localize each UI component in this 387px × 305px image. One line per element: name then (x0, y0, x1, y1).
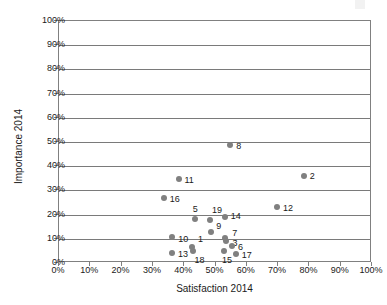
data-point-label: 1 (198, 235, 203, 244)
data-point-label: 18 (195, 256, 205, 265)
data-point (169, 234, 175, 240)
data-point-label: 15 (222, 256, 232, 265)
data-point (161, 195, 167, 201)
y-tick-label: 40% (21, 161, 65, 170)
x-tick-label: 100% (351, 266, 387, 275)
data-point (227, 142, 233, 148)
y-tick-label: 50% (21, 137, 65, 146)
data-point (229, 243, 235, 249)
data-point (233, 251, 239, 257)
y-tick-label: 20% (21, 210, 65, 219)
gridline-horizontal (59, 69, 370, 70)
data-point-label: 8 (236, 142, 241, 151)
y-tick-label: 90% (21, 40, 65, 49)
y-tick-label: 30% (21, 185, 65, 194)
data-point (190, 248, 196, 254)
data-point-label: 7 (232, 229, 237, 238)
data-point-label: 17 (242, 251, 252, 260)
data-point-label: 5 (193, 205, 198, 214)
data-point-label: 19 (212, 206, 222, 215)
data-point (176, 176, 182, 182)
data-point-label: 2 (310, 172, 315, 181)
y-tick-label: 60% (21, 113, 65, 122)
data-point (274, 204, 280, 210)
data-point-label: 10 (178, 235, 188, 244)
y-tick-label: 100% (21, 16, 65, 25)
data-point (222, 235, 228, 241)
y-tick-label: 80% (21, 64, 65, 73)
gridline-horizontal (59, 239, 370, 240)
gridline-horizontal (59, 142, 370, 143)
gridline-horizontal (59, 118, 370, 119)
data-point (169, 250, 175, 256)
gridline-horizontal (59, 190, 370, 191)
data-point-label: 11 (185, 176, 194, 185)
plot-area (58, 20, 371, 262)
y-tick-label: 10% (21, 234, 65, 243)
x-axis-title: Satisfaction 2014 (58, 283, 371, 294)
scan-artifact (355, 0, 365, 9)
data-point-label: 14 (231, 212, 241, 221)
gridline-horizontal (59, 166, 370, 167)
data-point-label: 9 (216, 222, 221, 231)
data-point-label: 12 (283, 204, 293, 213)
gridline-horizontal (59, 45, 370, 46)
y-tick-label: 70% (21, 89, 65, 98)
data-point-label: 16 (170, 195, 180, 204)
gridline-horizontal (59, 94, 370, 95)
y-axis-title: Importance 2014 (13, 72, 24, 222)
data-point-label: 13 (178, 250, 188, 259)
